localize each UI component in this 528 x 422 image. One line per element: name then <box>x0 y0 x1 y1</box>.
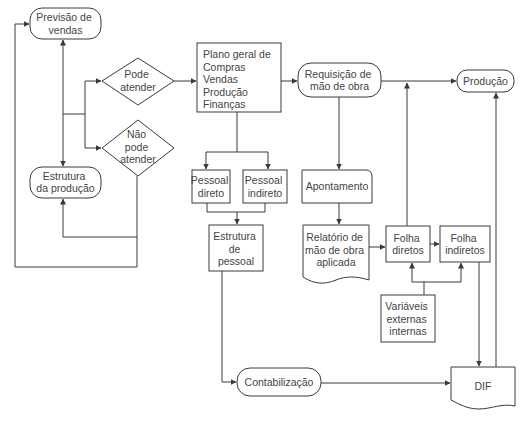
label-line: Pessoal <box>191 174 228 186</box>
label-line: Contabilização <box>245 376 314 388</box>
label-line: diretos <box>392 244 424 256</box>
edge-pessoal-join <box>207 203 265 212</box>
node-label: Folha indiretos <box>445 232 485 257</box>
label-line: Produção <box>463 75 508 87</box>
node-plano-geral: Plano geral de Compras Vendas Produção F… <box>197 43 281 112</box>
node-apontamento: Apontamento <box>302 170 372 203</box>
node-label: Contabilização <box>245 376 314 388</box>
node-label: Pode atender <box>120 68 156 93</box>
label-line: indireto <box>248 187 283 199</box>
node-estrutura-pessoal: Estrutura de pessoal <box>209 225 263 271</box>
label-line: de <box>229 243 241 255</box>
label-line: direto <box>198 187 224 199</box>
label-line: mão de obra <box>310 80 369 92</box>
label-line: Pode <box>124 68 149 80</box>
label-line: Vendas <box>203 73 238 85</box>
node-producao: Produção <box>457 70 514 92</box>
label-line: Estrutura <box>213 230 256 242</box>
node-label: Pessoal indireto <box>245 174 285 199</box>
node-estrutura-producao: Estrutura da produção <box>30 167 101 198</box>
label-line: Compras <box>203 61 246 73</box>
node-variaveis: Variáveis externas internas <box>381 295 435 342</box>
label-line: Relatório de <box>306 231 363 243</box>
label-line: DIF <box>475 380 492 392</box>
node-label: DIF <box>475 380 492 392</box>
label-line: Plano geral de <box>203 48 271 60</box>
node-label: Estrutura da produção <box>36 170 95 195</box>
node-requisicao-mao-obra: Requisição de mão de obra <box>298 63 381 97</box>
label-line: Folha <box>393 232 419 244</box>
label-line: Variáveis <box>385 300 427 312</box>
node-label: Folha diretos <box>392 232 424 257</box>
node-pessoal-direto: Pessoal direto <box>191 170 231 203</box>
label-line: indiretos <box>445 244 485 256</box>
label-line: Finanças <box>203 98 246 110</box>
label-line: mão de obra <box>305 244 364 256</box>
node-label: Apontamento <box>306 180 369 192</box>
label-line: pessoal <box>218 255 254 267</box>
label-line: Apontamento <box>306 180 369 192</box>
label-line: pode <box>125 141 149 153</box>
node-label: Requisição de mão de obra <box>305 68 374 93</box>
label-line: vendas <box>49 24 83 36</box>
node-previsao-vendas: Previsão de vendas <box>30 8 101 39</box>
label-line: Estrutura <box>43 170 86 182</box>
edge-estrutura-pessoal-to-contab <box>222 271 236 382</box>
label-line: Requisição de <box>305 68 372 80</box>
node-label: Produção <box>463 75 508 87</box>
label-line: aplicada <box>316 256 355 268</box>
edge-naopode-to-estrutura-producao <box>63 199 137 237</box>
node-contabilizacao: Contabilização <box>237 368 321 396</box>
node-relatorio-mao-obra: Relatório de mão de obra aplicada <box>303 225 369 283</box>
label-line: da produção <box>36 182 95 194</box>
label-line: externas <box>386 313 426 325</box>
node-folha-indiretos: Folha indiretos <box>440 226 490 262</box>
label-line: Não <box>127 128 146 140</box>
node-nao-pode-atender: Não pode atender <box>102 120 174 176</box>
label-line: Folha <box>450 232 476 244</box>
label-line: internas <box>389 325 426 337</box>
node-dif: DIF <box>451 367 515 409</box>
label-line: Produção <box>203 86 248 98</box>
label-line: Pessoal <box>245 174 282 186</box>
node-folha-diretos: Folha diretos <box>386 226 430 262</box>
label-line: Previsão de <box>36 11 92 23</box>
node-label: Variáveis externas internas <box>385 300 430 337</box>
node-pode-atender: Pode atender <box>102 58 174 105</box>
label-line: atender <box>120 153 156 165</box>
flowchart: Previsão de vendas Pode atender Não pode… <box>0 0 528 422</box>
label-line: atender <box>120 81 156 93</box>
node-pessoal-indireto: Pessoal indireto <box>243 170 287 203</box>
